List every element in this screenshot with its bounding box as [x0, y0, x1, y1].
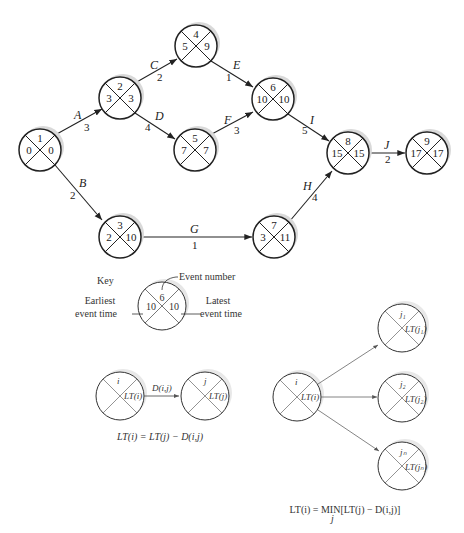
activity-label-C: C — [150, 58, 159, 72]
event-number: 7 — [271, 219, 277, 231]
edge-I — [288, 114, 329, 141]
key-event-number: 6 — [160, 292, 165, 303]
rule-multi-node-jn-value: LT(jₙ) — [404, 462, 427, 472]
rule-single-formula: LT(i) = LT(j) − D(i,j) — [116, 431, 204, 443]
earliest-time: 15 — [332, 147, 344, 159]
activity-duration-D: 4 — [145, 121, 151, 133]
rule-multi-successor: i LT(i) j₁ LT(j₁) j₂ LT(j₂) jₙ LT(jₙ) LT… — [273, 301, 429, 524]
rule-multi-node-i-value: LT(i) — [300, 392, 319, 402]
earliest-time: 5 — [182, 40, 188, 52]
rule-multi-node-j2-label: j₂ — [399, 379, 406, 389]
event-node-9: 91717 — [406, 129, 451, 174]
earliest-time: 0 — [26, 144, 32, 156]
key-latest-label-1: Latest — [206, 295, 231, 306]
activity-label-I: I — [309, 113, 315, 127]
key-latest-label-2: event time — [200, 308, 242, 319]
event-node-2: 233 — [99, 74, 144, 119]
key-earliest-label-2: event time — [75, 308, 117, 319]
activity-duration-E: 1 — [226, 71, 232, 83]
activity-duration-G: 1 — [192, 239, 198, 251]
pert-diagram: A 3 B 2 C 2 D 4 E 1 F 3 G 1 H 4 I 5 J 2 … — [0, 0, 464, 533]
activity-duration-I: 5 — [302, 124, 308, 136]
event-node-6: 61010 — [252, 75, 297, 120]
event-number: 9 — [424, 135, 430, 147]
activity-duration-F: 3 — [234, 124, 240, 136]
latest-time: 3 — [128, 92, 134, 104]
event-number: 1 — [37, 132, 43, 144]
key-earliest-label-1: Earliest — [85, 295, 116, 306]
event-node-8: 81515 — [327, 129, 372, 174]
latest-time: 15 — [354, 147, 366, 159]
earliest-time: 3 — [260, 231, 266, 243]
earliest-time: 7 — [181, 144, 187, 156]
key-event-number-label: Event number — [179, 271, 236, 282]
edge-B — [55, 165, 102, 220]
key-earliest: 10 — [146, 301, 156, 312]
activity-duration-J: 2 — [385, 153, 391, 165]
activity-label-J: J — [384, 138, 390, 152]
event-number: 3 — [117, 219, 123, 231]
rule-multi-node-j1-label: j₁ — [399, 309, 406, 319]
activity-label-B: B — [79, 176, 87, 190]
event-number: 8 — [345, 135, 351, 147]
rule-node-i-value: LT(i) — [123, 391, 142, 401]
activity-duration-A: 3 — [84, 121, 90, 133]
activity-duration-H: 4 — [312, 191, 318, 203]
earliest-time: 17 — [411, 147, 423, 159]
activity-label-G: G — [190, 222, 199, 236]
latest-time: 10 — [126, 231, 138, 243]
latest-time: 11 — [280, 231, 291, 243]
earliest-time: 2 — [106, 231, 112, 243]
activity-duration-B: 2 — [70, 189, 76, 201]
key-title: Key — [97, 275, 114, 286]
latest-time: 17 — [433, 147, 445, 159]
rule-single-successor: i LT(i) D(i,j) j LT(j) LT(i) = LT(j) − D… — [96, 369, 232, 443]
latest-time: 7 — [203, 144, 209, 156]
earliest-time: 10 — [257, 93, 269, 105]
event-node-7: 7311 — [253, 213, 298, 258]
edge-F — [210, 112, 253, 135]
event-node-1: 100 — [19, 126, 64, 171]
event-number: 6 — [270, 81, 276, 93]
activity-label-F: F — [223, 113, 232, 127]
activity-label-D: D — [154, 109, 164, 123]
activity-label-A: A — [73, 108, 82, 122]
rule-node-j-label: j — [203, 376, 207, 386]
event-number: 5 — [192, 132, 198, 144]
latest-time: 9 — [204, 40, 210, 52]
rule-multi-node-j2-value: LT(j₂) — [404, 394, 426, 404]
rule-multi-node-jn-label: jₙ — [399, 447, 407, 457]
legend-key: Key 6 10 10 Event number Earliest event … — [75, 271, 242, 330]
event-node-4: 459 — [175, 22, 220, 67]
rule-edge-label: D(i,j) — [151, 383, 172, 393]
event-node-5: 577 — [174, 126, 219, 171]
latest-time: 10 — [279, 93, 291, 105]
earliest-time: 3 — [106, 92, 112, 104]
event-number: 4 — [193, 28, 199, 40]
activity-label-E: E — [232, 58, 241, 72]
rule-multi-node-j1-value: LT(j₁) — [404, 324, 426, 334]
event-node-3: 3210 — [99, 213, 144, 258]
activity-duration-C: 2 — [157, 71, 163, 83]
event-number: 2 — [117, 80, 123, 92]
rule-multi-formula: LT(i) = MIN[LT(j) − D(i,j)] — [290, 504, 401, 516]
latest-time: 0 — [48, 144, 54, 156]
rule-node-j-value: LT(j) — [208, 391, 227, 401]
edge-E — [211, 61, 253, 87]
key-latest: 10 — [169, 301, 179, 312]
